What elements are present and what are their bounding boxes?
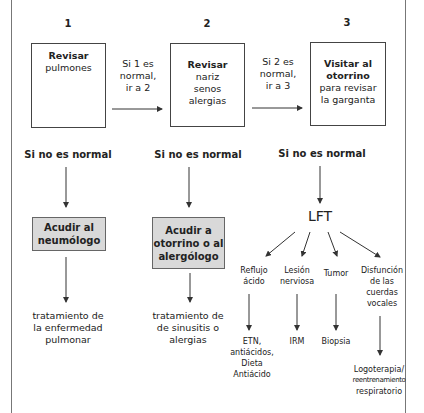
flow-arrows (0, 0, 424, 413)
